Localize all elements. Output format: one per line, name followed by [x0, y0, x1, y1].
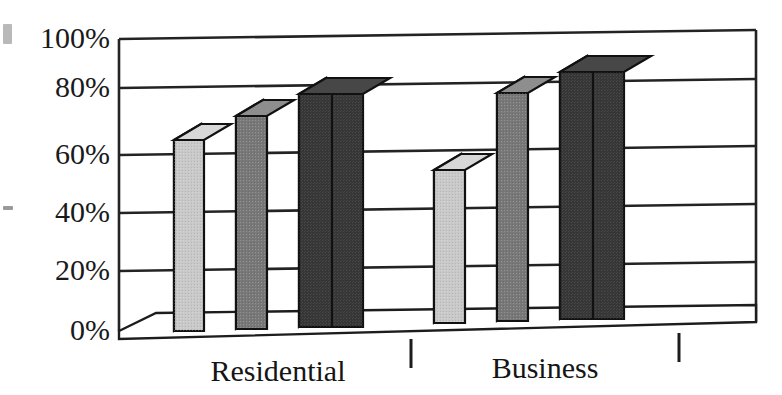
y-tick-label-80: 80%	[55, 70, 110, 103]
x-category-label-residential: Residential	[211, 354, 346, 387]
y-tick-label-0: 0%	[70, 313, 110, 346]
y-tick-label-40: 40%	[55, 195, 110, 228]
chart-background	[0, 0, 782, 395]
x-category-label-business: Business	[492, 351, 599, 384]
bar-chart: 100% 80% 60% 40% 20% 0% Residential Busi…	[0, 0, 782, 395]
chart-svg: 100% 80% 60% 40% 20% 0% Residential Busi…	[0, 0, 782, 395]
y-tick-label-100: 100%	[40, 21, 110, 54]
scan-artifact-middle	[3, 206, 13, 210]
scan-artifact-top	[3, 24, 12, 44]
y-tick-label-20: 20%	[55, 253, 110, 286]
y-tick-label-60: 60%	[55, 137, 110, 170]
